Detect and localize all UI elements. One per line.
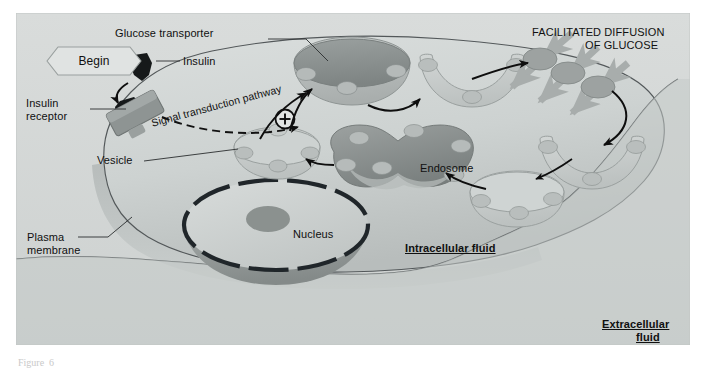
transporter-dot — [301, 147, 319, 159]
label-extracellular-fluid-line2: fluid — [636, 331, 660, 344]
transporter-dot — [349, 132, 369, 145]
nucleolus — [246, 206, 290, 232]
label-facilitated-diffusion-line1: FACILITATED DIFFUSION — [532, 26, 664, 39]
transporter-dot — [419, 59, 438, 72]
label-facilitated-diffusion-line2: OF GLUCOSE — [585, 39, 658, 52]
transporter-dot — [337, 82, 357, 95]
label-plasma-membrane-line2: membrane — [27, 244, 80, 257]
label-insulin-receptor-line1: Insulin — [26, 97, 59, 110]
label-glucose-transporter: Glucose transporter — [115, 27, 214, 40]
label-plasma-membrane-line1: Plasma — [27, 231, 64, 244]
begin-badge-label: Begin — [46, 46, 142, 76]
transporter-dot — [372, 162, 392, 175]
transporter-dot — [627, 141, 646, 154]
label-extracellular-fluid-line1: Extracellular — [602, 318, 669, 331]
label-nucleus: Nucleus — [293, 228, 333, 241]
label-endosome: Endosome — [420, 162, 473, 175]
transporter-dot — [386, 65, 406, 78]
label-insulin: Insulin — [183, 55, 216, 68]
figure-caption: Figure 6 — [18, 357, 54, 368]
transporter-dot — [583, 173, 602, 186]
transporter-dot — [404, 125, 424, 138]
transporter-in-membrane — [523, 48, 557, 70]
diagram-panel: Glucose transporter Insulin Insulin rece… — [16, 13, 690, 345]
transporter-dot — [269, 160, 287, 172]
transporter-dot — [544, 193, 563, 206]
transporter-dot — [296, 68, 316, 81]
label-vesicle: Vesicle — [97, 154, 133, 167]
vesicle-recycling — [470, 171, 564, 227]
begin-badge: Begin — [46, 46, 142, 76]
transporter-in-membrane — [581, 76, 615, 98]
label-intracellular-fluid: Intracellular fluid — [405, 242, 496, 255]
transporter-dot — [510, 207, 529, 220]
transporter-dot — [463, 91, 482, 104]
transporter-dot — [539, 141, 558, 154]
transporter-dot — [451, 140, 471, 153]
transporter-dot — [336, 159, 356, 172]
label-insulin-receptor-line2: receptor — [26, 110, 67, 123]
transporter-in-membrane — [551, 62, 585, 84]
transporter-dot — [472, 195, 491, 208]
figure-container: Glucose transporter Insulin Insulin rece… — [0, 0, 704, 386]
